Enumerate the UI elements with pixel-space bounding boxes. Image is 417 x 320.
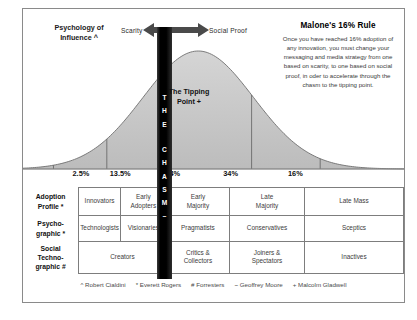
- table-row: AdoptionProfile *InnovatorsEarlyAdopters…: [23, 188, 404, 216]
- malone-rule-title: Malone's 16% Rule: [275, 21, 401, 30]
- bell-curve-svg: [23, 31, 404, 184]
- table-cell: Innovators: [79, 188, 121, 216]
- table-cell: LateMajority: [230, 188, 305, 216]
- footnote-item: ^ Robert Cialdini: [80, 281, 125, 288]
- percent-label: 13.5%: [98, 169, 142, 178]
- percentage-labels-row: 2.5%13.5%34%34%16%: [23, 169, 404, 187]
- chasm-letter: S: [162, 187, 167, 194]
- chasm-letter: A: [162, 174, 167, 181]
- table-row-label: Psycho-graphic *: [23, 216, 79, 242]
- percent-label: 2.5%: [59, 169, 103, 178]
- footnote-item: ~ Geoffrey Moore: [234, 281, 282, 288]
- chasm-letter: C: [162, 147, 167, 154]
- table-cell: Late Mass: [304, 188, 403, 216]
- table-cell: Pragmatists: [166, 216, 229, 242]
- diagram-frame: Psychology ofInfluence ^ Scarity Social …: [22, 8, 405, 303]
- the-chasm-bar: THECHASM~: [157, 27, 172, 279]
- diagram-canvas: Psychology ofInfluence ^ Scarity Social …: [0, 0, 417, 320]
- table-row: SocialTechno-graphic #CreatorsCritics &C…: [23, 242, 404, 274]
- adoption-table: AdoptionProfile *InnovatorsEarlyAdopters…: [23, 187, 404, 274]
- chasm-letter: H: [162, 108, 167, 115]
- percent-label: 16%: [273, 169, 317, 178]
- table-row: Psycho-graphic *TechnologistsVisionaries…: [23, 216, 404, 242]
- chasm-letter: ~: [162, 214, 166, 221]
- table-cell: Inactives: [304, 242, 403, 274]
- table-row-label: SocialTechno-graphic #: [23, 242, 79, 274]
- chasm-letter: E: [162, 122, 167, 129]
- footnote-row: ^ Robert Cialdini* Everett Rogers# Forre…: [23, 281, 404, 288]
- table-cell: Sceptics: [304, 216, 403, 242]
- table-cell: EarlyMajority: [166, 188, 229, 216]
- chasm-letter: H: [162, 160, 167, 167]
- table-row-label: AdoptionProfile *: [23, 188, 79, 216]
- table-cell: Conservatives: [230, 216, 305, 242]
- footnote-item: * Everett Rogers: [136, 281, 181, 288]
- tipping-point-label: The TippingPoint +: [151, 87, 227, 106]
- footnote-item: # Forresters: [191, 281, 224, 288]
- table-cell: Creators: [79, 242, 167, 274]
- bell-curve-chart: [23, 31, 404, 184]
- table-cell: Technologists: [79, 216, 121, 242]
- footnote-item: + Malcolm Gladwell: [293, 281, 347, 288]
- percent-label: 34%: [209, 169, 253, 178]
- chasm-letter: M: [162, 200, 168, 207]
- table-cell: Critics &Collectors: [166, 242, 229, 274]
- table-cell: Joiners &Spectators: [230, 242, 305, 274]
